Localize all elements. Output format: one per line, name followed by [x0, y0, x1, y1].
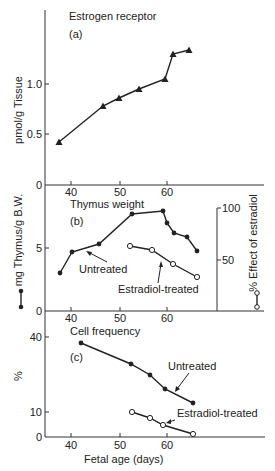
cell-untreated-line: [81, 343, 193, 403]
panel-a-xtick-60: 60: [161, 186, 173, 198]
panel-c-xtick-40: 40: [65, 439, 77, 451]
panel-c-ytick-40: 40: [30, 331, 42, 343]
panel-b-untreated-label: Untreated: [79, 263, 127, 275]
panel-c-ytick-10: 10: [30, 406, 42, 418]
panel-b-xtick-40: 40: [65, 312, 77, 324]
legend-open-circle-icon: [255, 291, 260, 310]
panel-c-untreated-arrow: [177, 373, 189, 389]
panel-c-ytick-0: 0: [36, 431, 42, 443]
legend-filled-circle-icon: [19, 289, 24, 310]
panel-b-xtick-60: 60: [161, 312, 173, 324]
panel-b-label: (b): [70, 215, 83, 227]
panel-b-ylabel-right: % Effect of estradiol: [247, 194, 259, 292]
estrogen-receptor-line: [59, 50, 189, 142]
panel-a-xtick-50: 50: [114, 186, 126, 198]
panel-a-ylabel: pmol/g Tissue: [12, 76, 24, 144]
panel-b-estradiol-label: Estradiol-treated: [118, 283, 199, 295]
panel-b-rtick-50: 50: [222, 254, 234, 266]
panel-c-xtick-60: 60: [161, 439, 173, 451]
figure: 40 50 60 1.0 0.5 0 pmol/g Tissue Estroge…: [0, 0, 275, 471]
panel-b-ytick-5: 5: [36, 242, 42, 254]
panel-b-rtick-100: 100: [222, 202, 240, 214]
panel-a-label: (a): [69, 28, 82, 40]
panel-a-ytick-0: 0: [36, 179, 42, 191]
panel-b-title: Thymus weight: [70, 198, 144, 210]
panel-c: 40 50 60 Fetal age (days) 40 10 0 % Cell…: [12, 325, 265, 465]
panel-c-estradiol-label: Estradiol-treated: [177, 407, 258, 419]
panel-a-xtick-40: 40: [65, 186, 77, 198]
panel-a-ytick-1: 1.0: [27, 78, 42, 90]
panel-c-title: Cell frequency: [70, 325, 141, 337]
panel-c-label: (c): [70, 351, 83, 363]
panel-a-title: Estrogen receptor: [69, 10, 157, 22]
x-axis-label: Fetal age (days): [84, 453, 163, 465]
panel-b-ylabel: mg Thymus/g B.W.: [12, 194, 24, 287]
panel-a: 40 50 60 1.0 0.5 0 pmol/g Tissue Estroge…: [12, 10, 264, 198]
panel-a-ytick-05: 0.5: [27, 128, 42, 140]
panel-c-ylabel: %: [12, 371, 24, 381]
panel-c-xtick-50: 50: [114, 439, 126, 451]
panel-b: 40 50 60 5 0 mg Thymus/g B.W. 100 50 % E…: [12, 194, 264, 324]
panel-b-ytick-0: 0: [36, 305, 42, 317]
thymus-estradiol-line: [130, 246, 197, 277]
panel-b-xtick-50: 50: [114, 312, 126, 324]
panel-c-untreated-label: Untreated: [168, 360, 216, 372]
thymus-estradiol-markers: [127, 243, 199, 279]
